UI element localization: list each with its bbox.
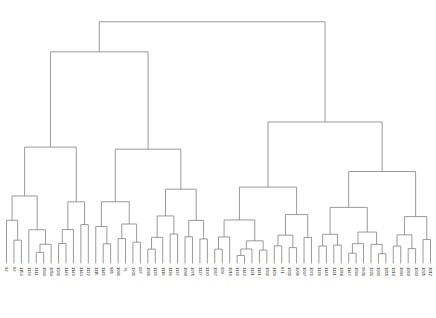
- dendrogram-link: [7, 220, 18, 263]
- dendrogram-link: [103, 244, 110, 264]
- leaf-label: 1054: [49, 267, 53, 276]
- dendrogram-link: [352, 244, 363, 264]
- dendrogram-link: [101, 202, 129, 227]
- dendrogram-link: [133, 242, 140, 263]
- leaf-label: 1115: [94, 267, 98, 276]
- leaf-label: 1131: [250, 267, 254, 276]
- dendrogram-link: [268, 122, 382, 187]
- leaf-label: 1149: [71, 267, 75, 276]
- leaf-label: 1075: [190, 267, 194, 276]
- leaf-label: 1153: [19, 267, 23, 276]
- dendrogram-link: [215, 249, 222, 263]
- dendrogram-link: [122, 224, 137, 242]
- leaf-label: 1037: [302, 267, 306, 276]
- dendrogram-link: [224, 220, 255, 241]
- leaf-label: 1121: [332, 267, 336, 276]
- dendrogram-link: [50, 52, 148, 149]
- leaf-label: 1041: [56, 267, 60, 276]
- leaf-label: 1083: [399, 267, 403, 276]
- dendrogram-link: [99, 22, 325, 122]
- dendrogram-link: [148, 249, 155, 263]
- dendrogram-link: [68, 202, 85, 230]
- dendrogram-link: [404, 217, 426, 240]
- leaf-label: 1094: [354, 267, 358, 276]
- leaf-label: 1055: [384, 267, 388, 276]
- dendrogram-link: [393, 246, 400, 263]
- dendrogram-link: [237, 256, 244, 264]
- dendrogram-link: [25, 147, 77, 202]
- leaf-label: 1145: [101, 267, 105, 276]
- leaf-label: 1003: [376, 267, 380, 276]
- leaf-label: 1025: [421, 267, 425, 276]
- leaf-label: 92: [4, 267, 8, 272]
- dendrogram-links: [7, 22, 431, 264]
- dendrogram-link: [239, 187, 296, 220]
- leaf-label: 1148: [324, 267, 328, 276]
- leaf-label: 1016: [227, 267, 231, 276]
- dendrogram-link: [397, 235, 412, 249]
- leaf-label: 1033: [413, 267, 417, 276]
- dendrogram-link: [200, 239, 207, 264]
- leaf-label: 1146: [64, 267, 68, 276]
- leaf-label: 1127: [198, 267, 202, 276]
- dendrogram-link: [81, 225, 88, 264]
- dendrogram-link: [36, 252, 43, 263]
- dendrogram-link: [115, 149, 181, 202]
- leaf-label: 1019: [391, 267, 395, 276]
- leaf-label: 1122: [86, 267, 90, 276]
- leaf-label: 1128: [317, 267, 321, 276]
- leaf-label: 1136: [168, 267, 172, 276]
- leaf-label: 1141: [257, 267, 261, 276]
- dendrogram-link: [334, 245, 341, 263]
- dendrogram-link: [330, 207, 367, 234]
- leaf-label: 1002: [287, 267, 291, 276]
- dendrogram-link: [12, 196, 37, 230]
- leaf-label: 1081: [116, 267, 120, 276]
- leaf-label: 1109: [272, 267, 276, 276]
- dendrogram-link: [349, 253, 356, 263]
- leaf-label: 1067: [213, 267, 217, 276]
- dendrogram-link: [96, 226, 107, 263]
- leaf-label: 1133: [27, 267, 31, 276]
- dendrogram-link: [170, 234, 177, 263]
- dendrogram-link: [408, 249, 415, 264]
- leaf-label: 1044: [41, 267, 45, 276]
- leaf-label: 1118: [161, 267, 165, 276]
- dendrogram-link: [118, 239, 125, 264]
- leaf-label: 1221: [369, 267, 373, 276]
- dendrogram-link: [289, 248, 296, 264]
- dendrogram-link: [323, 234, 338, 246]
- leaf-label: 909: [220, 267, 224, 274]
- leaf-label: 76: [123, 267, 127, 272]
- dendrogram-link: [378, 254, 385, 264]
- dendrogram-link: [59, 243, 66, 263]
- leaf-label: 2601: [361, 267, 365, 276]
- leaf-label: 1071: [309, 267, 313, 276]
- leaf-label: 985: [108, 267, 112, 274]
- dendrogram-figure: 9282115311331111104410541041114611491144…: [0, 0, 436, 318]
- dendrogram-link: [423, 240, 430, 264]
- leaf-label: 1111: [34, 267, 38, 275]
- leaf-label: 1137: [175, 267, 179, 276]
- leaf-label: 871: [280, 267, 284, 274]
- dendrogram-link: [259, 250, 266, 263]
- leaf-label: 1139: [235, 267, 239, 276]
- leaf-label: 1142: [242, 267, 246, 276]
- leaf-label: 1012: [428, 267, 432, 276]
- dendrogram-link: [319, 246, 326, 264]
- leaf-label: 1042: [265, 267, 269, 276]
- leaf-label: 1058: [339, 267, 343, 276]
- dendrogram-link: [349, 172, 416, 217]
- leaf-label: 1060: [406, 267, 410, 276]
- dendrogram-link: [62, 230, 73, 264]
- dendrogram-link: [29, 230, 46, 264]
- dendrogram-link: [358, 232, 377, 244]
- dendrogram-link: [14, 240, 21, 263]
- leaf-label: 82: [12, 267, 16, 272]
- leaf-label: 1096: [146, 267, 150, 276]
- leaf-label: 1090: [183, 267, 187, 276]
- leaf-label: 1201: [131, 267, 135, 276]
- dendrogram-link: [152, 237, 163, 263]
- dendrogram-link: [40, 244, 51, 263]
- leaf-label: 1006: [294, 267, 298, 276]
